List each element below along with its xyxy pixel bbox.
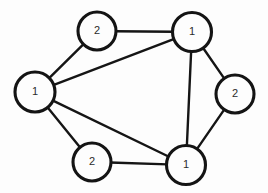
graph-node[interactable]: 1 <box>15 72 55 112</box>
graph-edge <box>187 50 191 146</box>
graph-edge <box>202 47 224 79</box>
nodes-layer: 211221 <box>15 12 254 185</box>
diagram-canvas: 211221 <box>0 0 268 193</box>
graph-node[interactable]: 1 <box>167 146 206 185</box>
node-label: 1 <box>183 158 189 170</box>
graph-edge <box>48 43 84 78</box>
node-label: 1 <box>32 85 38 97</box>
graph-edge <box>115 31 174 32</box>
graph-svg: 211221 <box>0 0 268 193</box>
graph-node[interactable]: 2 <box>216 75 254 113</box>
graph-node[interactable]: 2 <box>73 143 111 181</box>
node-label: 1 <box>189 25 195 37</box>
node-label: 2 <box>94 24 100 36</box>
graph-edge <box>52 100 170 157</box>
graph-edge <box>53 39 175 86</box>
node-label: 2 <box>232 87 238 99</box>
node-label: 2 <box>89 155 95 167</box>
graph-edge <box>110 163 168 165</box>
graph-edge <box>196 109 225 150</box>
graph-node[interactable]: 2 <box>78 12 116 50</box>
graph-node[interactable]: 1 <box>173 13 212 52</box>
